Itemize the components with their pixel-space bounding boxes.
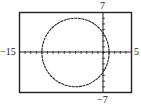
- x-axis-ticks: [20, 51, 132, 54]
- graph-window: [0, 0, 141, 106]
- xmax-label: 5: [134, 47, 139, 57]
- xmin-label: −15: [0, 47, 16, 57]
- ymin-label: −7: [97, 95, 108, 105]
- ymax-label: 7: [100, 1, 105, 11]
